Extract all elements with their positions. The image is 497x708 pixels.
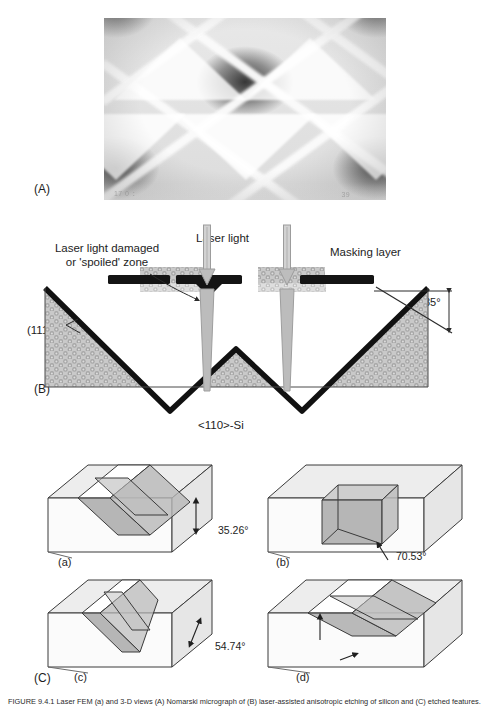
tag-b-leader (268, 552, 290, 558)
panel-c-diagrams (0, 440, 497, 690)
panel-b-schematic (0, 215, 497, 430)
sem-micrograph: 17 0 ： 39 (104, 18, 386, 200)
tag-c-leader (48, 667, 88, 673)
subpanel-a (48, 465, 212, 552)
subpanel-b (268, 465, 462, 560)
figure-caption: FIGURE 9.4.1 Laser FEM (a) and 3-D views… (8, 697, 490, 707)
masking-layer-left (108, 275, 170, 284)
cavity-b-front (322, 500, 382, 544)
panel-a-tag: (A) (34, 182, 50, 196)
sem-stage: 17 0 ： 39 (104, 18, 386, 200)
sem-overlay-right: 39 (341, 191, 350, 198)
subpanel-d (268, 580, 462, 667)
tag-a-leader (48, 552, 72, 558)
subpanel-c (48, 580, 212, 667)
figure-root: (A) 17 0 ： 39 (B) Laser light damaged or… (0, 0, 497, 708)
sem-vignette (104, 18, 386, 200)
tag-d-leader (268, 667, 310, 673)
masking-layer-right (300, 275, 374, 284)
sem-overlay-left: 17 0 ： (114, 188, 139, 198)
